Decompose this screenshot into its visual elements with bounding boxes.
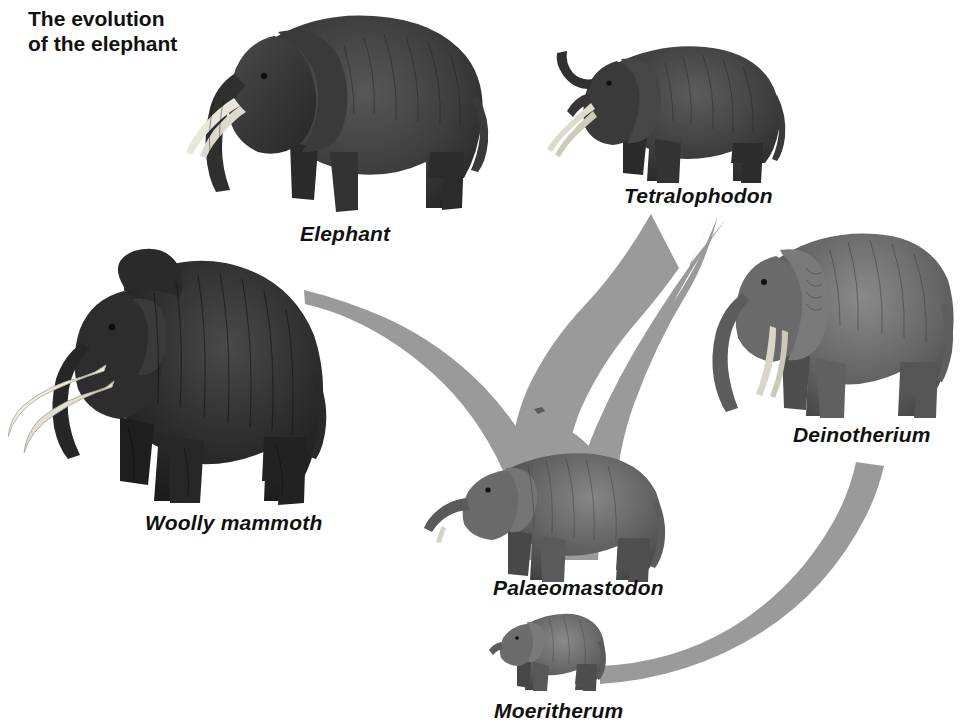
evolution-of-the-elephant-figure: The evolution of the elephant	[0, 0, 961, 728]
illustration-elephant	[178, 2, 494, 220]
illustration-moeritherum	[487, 608, 613, 692]
illustration-deinotherium	[698, 222, 960, 422]
caption-palaeomastodon: Palaeomastodon	[493, 576, 664, 600]
page-title: The evolution of the elephant	[28, 6, 177, 56]
caption-elephant: Elephant	[300, 222, 390, 246]
illustration-palaeomastodon	[418, 448, 674, 583]
caption-tetralophodon: Tetralophodon	[624, 184, 773, 208]
illustration-tetralophodon	[543, 33, 793, 188]
caption-moeritherum: Moeritherum	[494, 699, 623, 723]
illustration-woolly-mammoth	[8, 247, 348, 509]
caption-deinotherium: Deinotherium	[793, 423, 931, 447]
caption-woolly-mammoth: Woolly mammoth	[145, 511, 322, 535]
